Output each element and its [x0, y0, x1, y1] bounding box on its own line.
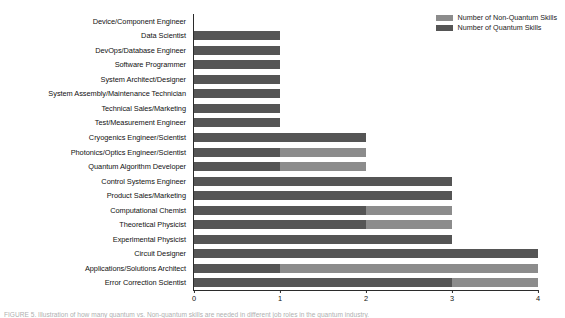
bar-row — [194, 72, 538, 87]
bar-row — [194, 261, 538, 276]
bar-segment-quantum — [194, 191, 452, 200]
x-axis-tick-mark — [366, 290, 367, 293]
bar-row — [194, 276, 538, 291]
y-axis-label: Photonics/Optics Engineer/Scientist — [0, 145, 190, 160]
y-axis-label: Product Sales/Marketing — [0, 188, 190, 203]
y-axis-label: Device/Component Engineer — [0, 14, 190, 29]
bar-segment-non-quantum — [452, 278, 538, 287]
y-axis-label: Applications/Solutions Architect — [0, 261, 190, 276]
y-axis-label: Quantum Algorithm Developer — [0, 159, 190, 174]
stacked-bar — [194, 220, 538, 229]
x-axis-tick: 0 — [192, 290, 196, 303]
bar-segment-quantum — [194, 278, 452, 287]
stacked-bar — [194, 162, 538, 171]
y-axis-label: Cryogenics Engineer/Scientist — [0, 130, 190, 145]
x-axis-tick: 3 — [450, 290, 454, 303]
stacked-bar — [194, 133, 538, 142]
bar-segment-quantum — [194, 118, 280, 127]
bar-segment-quantum — [194, 162, 280, 171]
bar-row — [194, 58, 538, 73]
bar-row — [194, 159, 538, 174]
plot-area — [194, 14, 538, 290]
bar-segment-non-quantum — [366, 206, 452, 215]
bar-segment-quantum — [194, 264, 280, 273]
bar-segment-non-quantum — [280, 264, 538, 273]
stacked-bar — [194, 278, 538, 287]
bar-row — [194, 188, 538, 203]
bar-row — [194, 43, 538, 58]
bar-segment-quantum — [194, 148, 280, 157]
bar-segment-quantum — [194, 46, 280, 55]
stacked-bar — [194, 118, 538, 127]
y-axis-category-labels: Device/Component EngineerData ScientistD… — [0, 14, 190, 290]
figure-caption: FIGURE 5. Illustration of how many quant… — [4, 310, 561, 318]
y-axis-label: Experimental Physicist — [0, 232, 190, 247]
legend-label: Number of Quantum Skills — [458, 24, 542, 31]
x-axis-tick-label: 4 — [536, 294, 540, 303]
x-axis-tick: 1 — [278, 290, 282, 303]
x-axis-tick-mark — [280, 290, 281, 293]
legend-swatch-icon — [436, 25, 453, 31]
y-axis-label: Computational Chemist — [0, 203, 190, 218]
stacked-bar — [194, 191, 538, 200]
bar-row — [194, 174, 538, 189]
bar-row — [194, 203, 538, 218]
y-axis-label: Test/Measurement Engineer — [0, 116, 190, 131]
chart-legend: Number of Non-Quantum SkillsNumber of Qu… — [436, 14, 557, 31]
legend-entry: Number of Non-Quantum Skills — [436, 14, 557, 21]
bar-row — [194, 247, 538, 262]
stacked-bar — [194, 148, 538, 157]
stacked-bar — [194, 235, 538, 244]
y-axis-label: Error Correction Scientist — [0, 276, 190, 291]
bar-row — [194, 101, 538, 116]
x-axis-tick-label: 3 — [450, 294, 454, 303]
bar-segment-quantum — [194, 89, 280, 98]
legend-entry: Number of Quantum Skills — [436, 24, 557, 31]
legend-label: Number of Non-Quantum Skills — [458, 14, 557, 21]
bar-row — [194, 87, 538, 102]
bar-segment-quantum — [194, 31, 280, 40]
bar-segment-quantum — [194, 249, 538, 258]
x-axis-tick-mark — [452, 290, 453, 293]
bar-row — [194, 217, 538, 232]
y-axis-label: Theoretical Physicist — [0, 217, 190, 232]
stacked-bar — [194, 75, 538, 84]
bar-segment-quantum — [194, 75, 280, 84]
y-axis-label: Data Scientist — [0, 29, 190, 44]
y-axis-label: System Assembly/Maintenance Technician — [0, 87, 190, 102]
x-axis-tick-label: 0 — [192, 294, 196, 303]
bar-segment-quantum — [194, 177, 452, 186]
x-axis-tick-mark — [194, 290, 195, 293]
bar-rows — [194, 14, 538, 290]
bar-row — [194, 145, 538, 160]
x-axis-tick-label: 2 — [364, 294, 368, 303]
y-axis-label: Technical Sales/Marketing — [0, 101, 190, 116]
stacked-bar — [194, 89, 538, 98]
stacked-bar — [194, 264, 538, 273]
stacked-bar — [194, 104, 538, 113]
stacked-bar — [194, 60, 538, 69]
legend-swatch-icon — [436, 15, 453, 21]
x-axis-tick: 2 — [364, 290, 368, 303]
stacked-bar — [194, 206, 538, 215]
bar-segment-non-quantum — [366, 220, 452, 229]
y-axis-label: Software Programmer — [0, 58, 190, 73]
bar-segment-quantum — [194, 206, 366, 215]
x-axis-tick-label: 1 — [278, 294, 282, 303]
bar-segment-quantum — [194, 104, 280, 113]
stacked-bar — [194, 177, 538, 186]
stacked-bar — [194, 31, 538, 40]
bar-segment-quantum — [194, 133, 366, 142]
y-axis-label: Circuit Designer — [0, 247, 190, 262]
bar-segment-quantum — [194, 60, 280, 69]
x-axis-ticks: 01234 — [194, 290, 539, 306]
stacked-bar — [194, 46, 538, 55]
bar-segment-quantum — [194, 220, 366, 229]
bar-segment-quantum — [194, 235, 452, 244]
bar-row — [194, 116, 538, 131]
bar-row — [194, 232, 538, 247]
x-axis-tick: 4 — [536, 290, 540, 303]
bar-row — [194, 130, 538, 145]
y-axis-label: Control Systems Engineer — [0, 174, 190, 189]
